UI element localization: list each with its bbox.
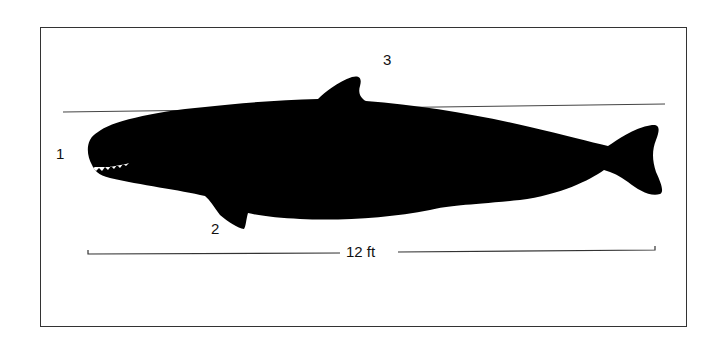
whale-diagram [0,0,725,353]
scale-bar-label: 12 ft [342,244,379,259]
whale-silhouette [88,76,662,229]
label-2: 2 [211,221,219,236]
label-3: 3 [383,52,391,67]
label-1: 1 [56,146,64,161]
